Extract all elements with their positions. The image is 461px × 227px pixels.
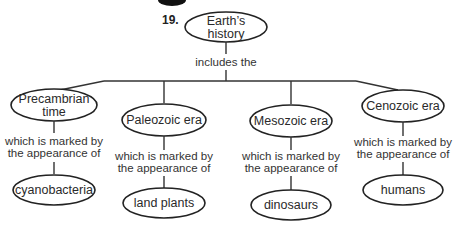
question-number: 19. xyxy=(162,13,179,27)
era-label: Cenozoic era xyxy=(366,99,440,113)
link-label-line-1: which is marked by xyxy=(4,135,103,147)
branch-cenozoic: Cenozoic era which is marked by the appe… xyxy=(353,90,452,205)
root-node-earths-history: Earth’s history xyxy=(185,12,267,42)
era-label: Paleozoic era xyxy=(126,113,202,127)
era-label-line-2: time xyxy=(42,105,66,119)
root-label-line-1: Earth’s xyxy=(207,14,246,28)
marker-label: land plants xyxy=(134,196,194,210)
link-label-line-1: which is marked by xyxy=(353,136,452,148)
branch-paleozoic: Paleozoic era which is marked by the app… xyxy=(114,104,213,218)
branch-mesozoic: Mesozoic era which is marked by the appe… xyxy=(241,105,340,220)
link-label-line-2: the appearance of xyxy=(357,148,451,160)
marker-label: cyanobacteria xyxy=(15,183,93,197)
link-label-line-2: the appearance of xyxy=(118,162,212,174)
branch-edge-4 xyxy=(356,81,398,90)
page-marker-shape xyxy=(158,0,186,6)
era-label-line-1: Precambrian xyxy=(19,92,90,106)
link-label-line-2: the appearance of xyxy=(245,162,339,174)
marker-label: humans xyxy=(381,183,425,197)
root-label-line-2: history xyxy=(208,27,246,41)
marker-label: dinosaurs xyxy=(264,198,318,212)
era-label: Mesozoic era xyxy=(254,114,328,128)
link-label-line-1: which is marked by xyxy=(241,150,340,162)
link-label-line-1: which is marked by xyxy=(114,150,213,162)
root-link-label: includes the xyxy=(195,56,256,68)
link-label-line-2: the appearance of xyxy=(8,147,102,159)
branch-precambrian: Precambrian time which is marked by the … xyxy=(4,89,103,205)
concept-map: 19. Earth’s history includes the Precamb… xyxy=(0,0,461,227)
